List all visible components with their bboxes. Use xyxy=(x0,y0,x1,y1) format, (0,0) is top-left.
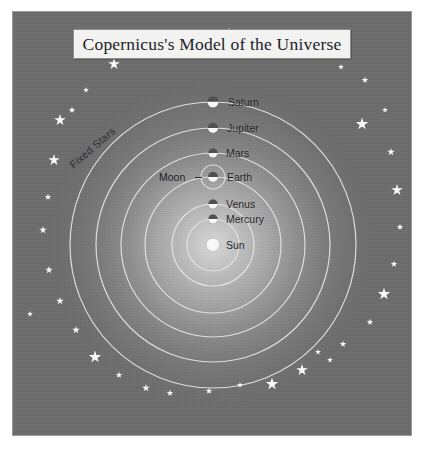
planet-dot-saturn xyxy=(208,97,219,108)
moon-label: Moon xyxy=(159,171,185,183)
planet-dot-mercury xyxy=(209,215,218,224)
moon-leader-line xyxy=(195,177,202,178)
planet-dot-jupiter xyxy=(208,123,218,133)
diagram-panel: SunMercuryVenusEarthMarsJupiterSaturn Mo… xyxy=(12,11,412,436)
figure-page: SunMercuryVenusEarthMarsJupiterSaturn Mo… xyxy=(0,0,423,450)
sun-body xyxy=(206,238,221,253)
planet-label-jupiter: Jupiter xyxy=(227,122,259,134)
orbit-circles-layer xyxy=(13,12,412,436)
planet-label-venus: Venus xyxy=(226,198,255,210)
planet-dot-mars xyxy=(209,149,218,158)
planet-dot-venus xyxy=(209,200,218,209)
page-title: Copernicus's Model of the Universe xyxy=(83,34,342,55)
planet-dot-earth xyxy=(208,172,218,182)
planet-label-mercury: Mercury xyxy=(226,213,264,225)
planet-label-sun: Sun xyxy=(226,239,245,251)
planet-label-saturn: Saturn xyxy=(228,96,259,108)
planet-label-mars: Mars xyxy=(226,147,249,159)
planet-label-earth: Earth xyxy=(227,171,252,183)
title-box: Copernicus's Model of the Universe xyxy=(73,29,351,59)
